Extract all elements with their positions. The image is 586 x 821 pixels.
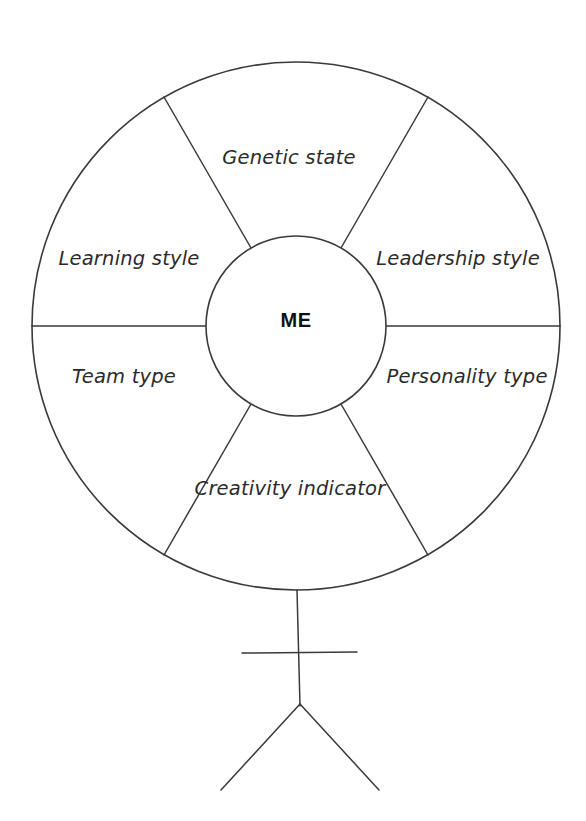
sector-label-creativity-indicator: Creativity indicator <box>195 478 386 499</box>
sector-label-genetic-state: Genetic state <box>222 147 355 168</box>
figure-arms-line <box>242 652 357 653</box>
figure-right-leg-line <box>300 704 379 790</box>
center-label-me: ME <box>281 309 312 332</box>
spoke-upper-left <box>164 97 251 248</box>
figure-torso-line <box>297 590 300 706</box>
wheel-graphic <box>0 0 586 821</box>
me-wheel-diagram: Genetic state Leadership style Personali… <box>0 0 586 821</box>
sector-label-personality-type: Personality type <box>386 366 547 387</box>
sector-label-team-type: Team type <box>72 366 176 387</box>
sector-label-learning-style: Learning style <box>58 248 199 269</box>
spoke-upper-right <box>341 97 428 248</box>
figure-left-leg-line <box>221 704 300 790</box>
sector-label-leadership-style: Leadership style <box>376 248 540 269</box>
